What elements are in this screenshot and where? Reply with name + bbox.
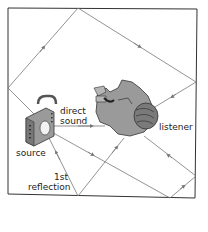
- source-label: source: [16, 148, 46, 158]
- listener-figure-icon: [94, 80, 158, 136]
- room-diagram: [0, 0, 208, 232]
- direct-label-line1: direct: [60, 106, 87, 116]
- source-speaker-icon: [26, 96, 56, 146]
- direct-sound-label: direct sound: [60, 106, 87, 126]
- reflection-label-line1: 1st: [28, 172, 68, 182]
- listener-label: listener: [159, 122, 193, 132]
- direct-label-line2: sound: [60, 116, 87, 126]
- first-reflection-label: 1st reflection: [28, 172, 68, 192]
- reflection-label-line2: reflection: [28, 182, 68, 192]
